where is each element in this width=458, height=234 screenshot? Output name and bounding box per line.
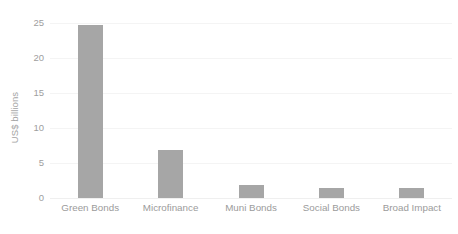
bar bbox=[78, 25, 103, 198]
plot-area bbox=[50, 23, 452, 198]
bar bbox=[399, 188, 424, 198]
bar bbox=[239, 185, 264, 198]
bar-slot bbox=[372, 23, 452, 198]
y-axis-tick-label: 5 bbox=[22, 158, 44, 168]
y-axis-tick-label: 15 bbox=[22, 88, 44, 98]
bar-slot bbox=[291, 23, 371, 198]
bar bbox=[158, 150, 183, 198]
gridline bbox=[50, 198, 452, 199]
y-axis-tick-label: 25 bbox=[22, 18, 44, 28]
bar-slot bbox=[130, 23, 210, 198]
x-axis-tick-label: Green Bonds bbox=[50, 203, 130, 214]
x-axis-tick-label: Microfinance bbox=[130, 203, 210, 214]
y-axis-tick-label: 10 bbox=[22, 123, 44, 133]
bar-slot bbox=[211, 23, 291, 198]
x-axis-tick-labels: Green BondsMicrofinanceMuni BondsSocial … bbox=[50, 203, 452, 214]
y-axis-title-text: US$ billions bbox=[10, 91, 21, 142]
bar-series bbox=[50, 23, 452, 198]
x-axis-tick-label: Muni Bonds bbox=[211, 203, 291, 214]
y-axis-tick-label: 0 bbox=[22, 193, 44, 203]
x-axis-tick-label: Social Bonds bbox=[291, 203, 371, 214]
bar-slot bbox=[50, 23, 130, 198]
x-axis-tick-label: Broad Impact bbox=[372, 203, 452, 214]
bar-chart: US$ billions 0510152025 Green BondsMicro… bbox=[0, 0, 458, 234]
y-axis-tick-label: 20 bbox=[22, 53, 44, 63]
bar bbox=[319, 188, 344, 198]
